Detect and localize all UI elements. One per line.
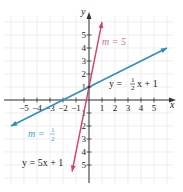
pink-arrow-start-icon (71, 165, 76, 171)
y-tick-label: 4 (82, 147, 87, 157)
svg-text:y =: y = (109, 78, 123, 89)
x-tick-label: 3 (126, 103, 131, 113)
x-tick-label: 1 (100, 103, 105, 113)
y-tick-label: 5 (82, 30, 87, 40)
x-tick-label: −2 (58, 103, 68, 113)
svg-text:2: 2 (131, 84, 135, 92)
y-tick-label: 3 (82, 134, 87, 144)
y-axis-label: y (80, 6, 86, 17)
blue-equation-label: y = 1 2 x + 1 (109, 76, 158, 92)
x-tick-label: −5 (19, 103, 29, 113)
y-tick-label: 4 (82, 43, 87, 53)
svg-text:1: 1 (131, 76, 135, 84)
y-tick-label: 3 (82, 56, 87, 66)
svg-text:2: 2 (51, 135, 55, 143)
svg-text:m =: m = (28, 128, 44, 139)
x-tick-label: 4 (139, 103, 144, 113)
y-axis-arrow-icon (87, 12, 92, 19)
coordinate-graph: x y −5−4−3−2−1123455432112345 m = 5 y = … (0, 0, 183, 192)
pink-arrow-end-icon (98, 22, 103, 28)
x-tick-label: 5 (152, 103, 157, 113)
y-intercept-point (88, 86, 91, 89)
y-tick-label: 5 (82, 160, 87, 170)
pink-slope-label: m = 5 (102, 36, 126, 47)
svg-text:x + 1: x + 1 (137, 78, 158, 89)
x-tick-label: 2 (113, 103, 118, 113)
svg-text:1: 1 (51, 126, 55, 134)
x-tick-label: −1 (71, 103, 81, 113)
x-axis-label: x (169, 99, 175, 110)
y-tick-label: 2 (82, 69, 87, 79)
blue-slope-label: m = 1 2 (28, 126, 55, 143)
pink-equation-label: y = 5x + 1 (22, 157, 63, 168)
